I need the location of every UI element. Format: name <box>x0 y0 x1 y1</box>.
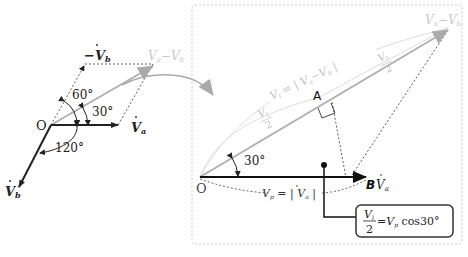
svg-text:Va: Va <box>131 120 146 136</box>
vb-label-left: Vb <box>5 180 21 200</box>
svg-text:Va−Vb: Va−Vb <box>425 13 462 28</box>
vp-arc-2 <box>318 180 366 193</box>
phasor-diagram: O 60° 30° 120° Va Vb −Vb Va−Vb <box>0 0 468 257</box>
origin-label-right: O <box>196 181 207 196</box>
origin-label-left: O <box>36 118 47 133</box>
diff-label-right: Va−Vb <box>425 13 462 28</box>
va-label-left: Va <box>131 116 146 136</box>
svg-text:−Vb: −Vb <box>84 48 111 64</box>
vl-equation-label: Vl = | Va−Vb | <box>266 42 379 105</box>
angle-arc-30-right <box>232 158 238 176</box>
diff-vector-right <box>200 30 448 177</box>
angle-30-label-right: 30° <box>244 154 265 168</box>
svg-text:Vl = | Va−Vb |: Vl = | Va−Vb | <box>268 60 340 104</box>
point-a-label: A <box>313 89 322 103</box>
angle-60-label: 60° <box>72 88 93 102</box>
va-label-right: Va <box>376 174 389 193</box>
right-phasor-diagram: O 30° A B Va Va−Vb Vl = | Va−Vb | Vl 2 V… <box>196 13 462 217</box>
vb-vector <box>19 125 51 187</box>
angle-arc-30 <box>83 108 88 125</box>
vp-arc <box>200 179 270 193</box>
svg-text:2: 2 <box>366 223 373 236</box>
parallelogram-edge-right <box>118 64 153 125</box>
svg-text:=Vp cos30°: =Vp cos30° <box>377 215 439 229</box>
zoom-transition-arrow <box>122 75 213 95</box>
svg-text:Va−Vb: Va−Vb <box>148 49 185 64</box>
vp-equation-label: Vp = | Va | <box>262 185 320 201</box>
callout-leader <box>324 165 356 217</box>
diff-label-left: Va−Vb <box>148 49 185 64</box>
point-b-label: B <box>366 178 375 192</box>
svg-text:2: 2 <box>264 118 274 131</box>
left-phasor-diagram: O 60° 30° 120° Va Vb −Vb Va−Vb <box>5 44 185 200</box>
angle-120-label: 120° <box>55 141 84 155</box>
neg-vb-label-left: −Vb <box>84 44 111 64</box>
angle-30-label: 30° <box>92 105 113 119</box>
svg-text:Va: Va <box>376 178 389 193</box>
